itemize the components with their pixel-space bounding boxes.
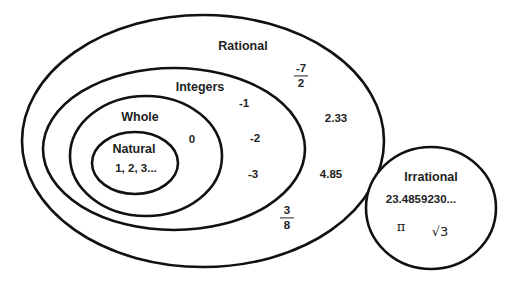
integer-value-neg3: -3 [248, 168, 258, 180]
integer-value-neg2: -2 [250, 132, 260, 144]
irrational-value-decimal: 23.4859230... [386, 193, 456, 205]
natural-label: Natural [112, 142, 155, 156]
rational-label: Rational [218, 39, 267, 53]
fraction-numerator: 3 [284, 204, 290, 216]
whole-label: Whole [121, 110, 159, 124]
rational-value-4-85: 4.85 [320, 168, 342, 180]
whole-value-zero: 0 [189, 133, 195, 145]
fraction-denominator: 8 [284, 220, 290, 232]
irrational-label: Irrational [404, 170, 458, 184]
rational-value-2-33: 2.33 [325, 112, 347, 124]
fraction-denominator: 2 [298, 78, 304, 90]
fraction-bar [294, 75, 308, 76]
rational-value-neg-seven-halves: -7 2 [294, 62, 308, 89]
fraction-numerator: -7 [296, 62, 306, 74]
sqrt-three: √3 [432, 224, 449, 239]
integer-value-neg1: -1 [239, 97, 249, 109]
pi-symbol: π [397, 219, 406, 234]
number-sets-venn-diagram: Rational Integers Whole Natural Irration… [0, 0, 513, 284]
irrational-set-circle [366, 147, 496, 269]
fraction-bar [280, 217, 294, 218]
integers-label: Integers [176, 80, 225, 94]
rational-value-three-eighths: 3 8 [280, 204, 294, 231]
natural-values: 1, 2, 3... [115, 162, 157, 174]
